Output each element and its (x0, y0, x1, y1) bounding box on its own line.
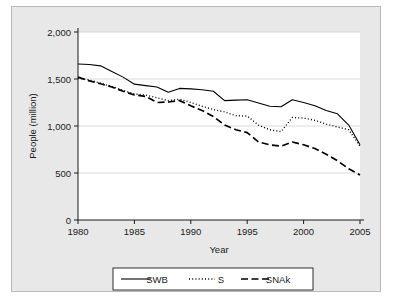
x-axis-label: Year (209, 244, 228, 255)
x-tick-label-1985: 1985 (124, 226, 145, 237)
legend: SWBSSNAk (113, 268, 313, 290)
y-tick-label-2000: 2,000 (47, 27, 71, 38)
legend-label-S: S (218, 274, 224, 285)
legend-label-SNAk: SNAk (266, 274, 291, 285)
y-tick-label-1000: 1,000 (47, 121, 71, 132)
y-tick-label-500: 500 (55, 168, 71, 179)
chart-figure: 05001,0001,5002,000198019851990199520002… (0, 0, 393, 308)
x-tick-label-1990: 1990 (180, 226, 201, 237)
x-tick-label-1980: 1980 (67, 226, 88, 237)
x-tick-label-2000: 2000 (293, 226, 314, 237)
x-tick-label-1995: 1995 (237, 226, 258, 237)
line-chart: 05001,0001,5002,000198019851990199520002… (0, 0, 393, 308)
x-axis-ticks: 198019851990199520002005 (67, 220, 370, 237)
y-tick-label-0: 0 (66, 215, 71, 226)
legend-label-SWB: SWB (146, 274, 168, 285)
x-tick-label-2005: 2005 (349, 226, 370, 237)
y-axis-label: People (million) (27, 93, 38, 158)
y-tick-label-1500: 1,500 (47, 74, 71, 85)
y-axis-ticks: 05001,0001,5002,000 (47, 27, 78, 226)
